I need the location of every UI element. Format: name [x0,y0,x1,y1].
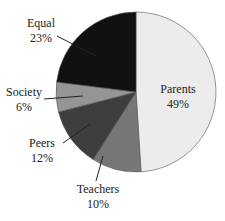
pie-chart: Parents49%Teachers10%Peers12%Society6%Eq… [0,0,225,221]
slice-percent: 6% [16,100,32,114]
slice-label-equal: Equal23% [27,16,56,45]
slice-label-society: Society6% [6,85,42,114]
slice-label-teachers: Teachers10% [77,182,120,211]
slice-name: Parents [160,82,196,96]
slice-label-peers: Peers12% [29,136,55,165]
slice-percent: 49% [167,97,189,111]
slice-name: Society [6,85,42,99]
slice-name: Equal [27,16,56,30]
slice-name: Peers [29,136,55,150]
slice-percent: 10% [87,197,109,211]
slice-percent: 23% [30,31,52,45]
pie-slice-equal [57,12,136,92]
slice-percent: 12% [31,151,53,165]
slice-name: Teachers [77,182,120,196]
